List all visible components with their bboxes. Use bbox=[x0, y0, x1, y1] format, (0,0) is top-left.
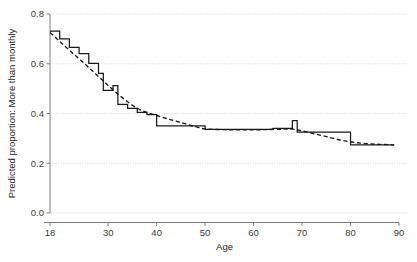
y-tick-label-0.4: 0.4 bbox=[31, 108, 44, 119]
figure-container: 0.00.20.40.60.8 1830405060708090 Age Pre… bbox=[0, 0, 417, 262]
data-series-group bbox=[50, 31, 394, 145]
x-tick-label-90: 90 bbox=[394, 227, 405, 238]
tickmarks-group bbox=[47, 14, 400, 226]
y-axis-title: Predicted proportion: More than monthly bbox=[6, 29, 17, 199]
x-tick-label-80: 80 bbox=[345, 227, 356, 238]
x-tick-label-60: 60 bbox=[248, 227, 259, 238]
x-tick-label-40: 40 bbox=[151, 227, 162, 238]
x-tick-label-18: 18 bbox=[45, 227, 56, 238]
x-tick-label-30: 30 bbox=[103, 227, 114, 238]
x-tick-label-50: 50 bbox=[200, 227, 211, 238]
axes-group bbox=[44, 14, 399, 223]
gridlines-group bbox=[51, 14, 407, 213]
fitted-dashed-curve bbox=[50, 32, 394, 144]
x-tick-label-70: 70 bbox=[297, 227, 308, 238]
y-tick-label-0.8: 0.8 bbox=[31, 8, 44, 19]
chart-canvas: 0.00.20.40.60.8 1830405060708090 Age Pre… bbox=[0, 0, 417, 262]
x-axis-title: Age bbox=[216, 241, 233, 252]
y-tick-label-0.2: 0.2 bbox=[31, 158, 44, 169]
x-tick-labels-group: 1830405060708090 bbox=[45, 227, 405, 238]
y-tick-label-0.0: 0.0 bbox=[31, 207, 44, 218]
y-tick-label-0.6: 0.6 bbox=[31, 58, 44, 69]
y-tick-labels-group: 0.00.20.40.60.8 bbox=[31, 8, 44, 218]
observed-step-curve bbox=[50, 31, 394, 145]
